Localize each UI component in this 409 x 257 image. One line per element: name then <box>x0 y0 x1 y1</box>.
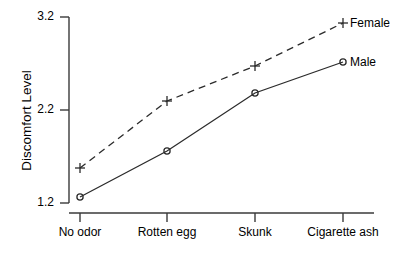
y-tick-label-mid: 2.2 <box>14 102 54 116</box>
chart-plot-area <box>0 0 409 257</box>
legend-label-male: Male <box>350 55 376 69</box>
x-tick-label-cigarette-ash: Cigarette ash <box>292 225 394 239</box>
y-tick-label-bottom: 1.2 <box>14 195 54 209</box>
y-axis-title: Discomfort Level <box>19 51 34 191</box>
series-line-male <box>80 62 343 197</box>
series-line-female <box>80 23 343 168</box>
series-markers-male <box>77 59 346 200</box>
legend-label-female: Female <box>350 16 390 30</box>
x-tick-label-skunk: Skunk <box>215 225 295 239</box>
x-tick-label-rotten-egg: Rotten egg <box>122 225 212 239</box>
series-markers-female <box>75 18 348 173</box>
x-tick-label-no-odor: No odor <box>40 225 120 239</box>
discomfort-level-line-chart: Discomfort Level 3.2 2.2 1.2 No odor Rot… <box>0 0 409 257</box>
y-tick-label-top: 3.2 <box>14 9 54 23</box>
